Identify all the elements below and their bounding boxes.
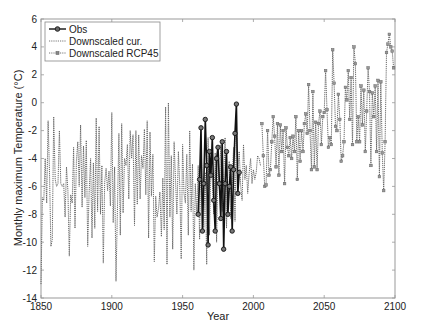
y-tick-label: -8	[28, 209, 37, 220]
x-tick-label: 2100	[384, 301, 407, 312]
x-axis-label: Year	[207, 310, 230, 322]
svg-text:Downscaled cur.: Downscaled cur.	[69, 36, 142, 47]
y-tick-label: 6	[31, 14, 37, 25]
y-tick-label: 4	[31, 41, 37, 52]
x-tick-label: 2050	[313, 301, 336, 312]
y-tick-label: -6	[28, 181, 37, 192]
y-tick-label: -4	[28, 153, 37, 164]
y-axis-label: Monthly maximum Temperature (°C)	[12, 70, 24, 247]
y-tick-label: 0	[31, 97, 37, 108]
svg-text:Downscaled RCP45: Downscaled RCP45	[69, 48, 159, 59]
x-tick-label: 1950	[171, 301, 194, 312]
y-tick-label: -2	[28, 125, 37, 136]
circle-marker-icon	[55, 27, 60, 32]
svg-text:Obs: Obs	[69, 24, 87, 35]
y-axis-label-text: Monthly maximum Temperature (°C)	[12, 70, 24, 247]
x-tick-label: 1900	[101, 301, 124, 312]
legend: Obs Downscaled cur. Downscaled RCP45	[45, 22, 160, 61]
y-tick-label: -12	[23, 265, 38, 276]
temperature-line-chart: -14-12-10-8-6-4-20246 185019001950200020…	[0, 0, 421, 334]
y-tick-label: -10	[23, 237, 38, 248]
x-tick-label: 1850	[30, 301, 53, 312]
x-tick-label: 2000	[242, 301, 265, 312]
y-tick-label: 2	[31, 69, 37, 80]
square-marker-icon	[56, 52, 59, 55]
